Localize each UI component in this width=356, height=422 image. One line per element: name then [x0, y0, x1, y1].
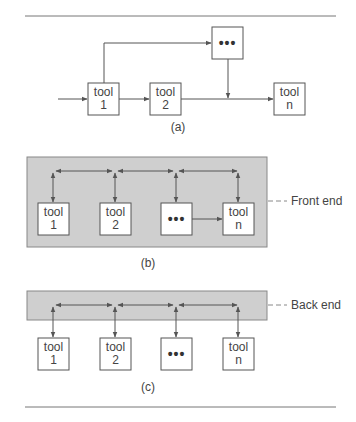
a-tool-1-line2: 1 — [88, 99, 119, 112]
back-end-label: Back end — [291, 298, 341, 312]
b-tool-1-line2: 1 — [38, 219, 69, 232]
b-tool-1-label: tool 1 — [38, 206, 69, 232]
b-tool-2-line2: 2 — [100, 219, 131, 232]
a-tool-2-line2: 2 — [150, 99, 181, 112]
b-tool-n-line2: n — [223, 219, 254, 232]
a-tool-n-label: tool n — [274, 86, 305, 112]
c-tool-n-label: tool n — [223, 341, 254, 367]
c-tool-1-label: tool 1 — [38, 341, 69, 367]
caption-b: (b) — [133, 256, 163, 270]
c-tool-2-label: tool 2 — [100, 341, 131, 367]
front-end-label: Front end — [291, 194, 342, 208]
b-tool-2-label: tool 2 — [100, 206, 131, 232]
a-tool-2-label: tool 2 — [150, 86, 181, 112]
c-tool-2-line2: 2 — [100, 354, 131, 367]
a-tool-1-label: tool 1 — [88, 86, 119, 112]
c-tool-n-line2: n — [223, 354, 254, 367]
b-tool-n-label: tool n — [223, 206, 254, 232]
b-ellipsis-icon: ••• — [161, 213, 192, 225]
c-tool-1-line2: 1 — [38, 354, 69, 367]
caption-a: (a) — [163, 120, 193, 134]
caption-c: (c) — [133, 380, 163, 394]
a-ellipsis-icon: ••• — [212, 37, 243, 49]
panel-b — [27, 157, 287, 247]
a-tool-n-line2: n — [274, 99, 305, 112]
c-ellipsis-icon: ••• — [161, 348, 192, 360]
